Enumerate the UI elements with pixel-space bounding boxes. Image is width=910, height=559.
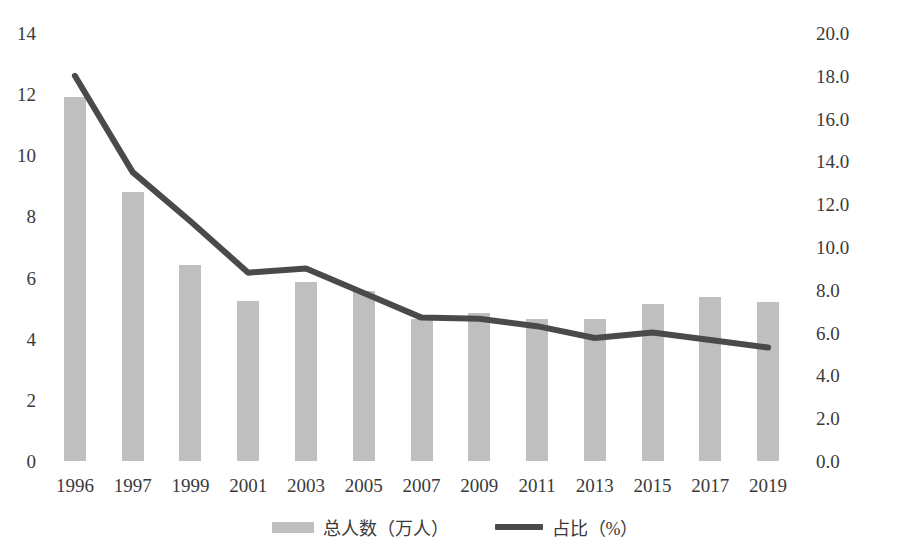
- right-axis-tick-8.0: 8.0: [816, 281, 876, 300]
- right-axis-tick-0.0: 0.0: [816, 452, 876, 471]
- legend-line-swatch-icon: [495, 524, 543, 530]
- bar-2019: [757, 302, 779, 461]
- bar-2001: [237, 301, 259, 462]
- bar-1997: [122, 192, 144, 461]
- chart-container: 02468101214 0.02.04.06.08.010.012.014.01…: [0, 0, 910, 559]
- legend-bar-swatch-icon: [272, 522, 314, 533]
- left-axis-tick-8: 8: [0, 207, 36, 226]
- left-axis-tick-14: 14: [0, 24, 36, 43]
- right-axis-tick-20.0: 20.0: [816, 24, 876, 43]
- category-tick-1997: 1997: [104, 476, 162, 495]
- bar-2007: [411, 319, 433, 461]
- right-axis-tick-6.0: 6.0: [816, 324, 876, 343]
- right-axis-tick-12.0: 12.0: [816, 195, 876, 214]
- category-tick-2003: 2003: [277, 476, 335, 495]
- bar-2017: [699, 297, 721, 461]
- bar-1996: [64, 97, 86, 461]
- category-tick-2017: 2017: [681, 476, 739, 495]
- right-axis-tick-16.0: 16.0: [816, 110, 876, 129]
- category-tick-2007: 2007: [393, 476, 451, 495]
- legend-label-share-percent: 占比（%）: [552, 514, 639, 540]
- left-axis-tick-4: 4: [0, 330, 36, 349]
- category-tick-1999: 1999: [162, 476, 220, 495]
- category-tick-2011: 2011: [508, 476, 566, 495]
- chart-legend: 总人数（万人） 占比（%）: [0, 514, 910, 540]
- bar-2015: [642, 304, 664, 461]
- bar-2013: [584, 319, 606, 461]
- category-tick-1996: 1996: [46, 476, 104, 495]
- category-tick-2013: 2013: [566, 476, 624, 495]
- bar-2003: [295, 282, 317, 461]
- category-tick-2015: 2015: [624, 476, 682, 495]
- right-axis-tick-2.0: 2.0: [816, 409, 876, 428]
- bar-2009: [468, 313, 490, 461]
- right-axis-tick-14.0: 14.0: [816, 152, 876, 171]
- right-axis-tick-18.0: 18.0: [816, 67, 876, 86]
- legend-item-total-population: 总人数（万人）: [272, 514, 449, 540]
- left-axis-tick-0: 0: [0, 452, 36, 471]
- left-axis-tick-10: 10: [0, 146, 36, 165]
- left-axis-tick-2: 2: [0, 391, 36, 410]
- right-axis-tick-4.0: 4.0: [816, 366, 876, 385]
- bar-2011: [526, 319, 548, 461]
- category-tick-2009: 2009: [450, 476, 508, 495]
- category-tick-2005: 2005: [335, 476, 393, 495]
- left-axis-tick-12: 12: [0, 85, 36, 104]
- legend-label-total-population: 总人数（万人）: [323, 514, 449, 540]
- left-axis-tick-6: 6: [0, 269, 36, 288]
- category-tick-2019: 2019: [739, 476, 797, 495]
- bar-2005: [353, 291, 375, 461]
- bar-1999: [179, 265, 201, 461]
- legend-item-share-percent: 占比（%）: [495, 514, 639, 540]
- right-axis-tick-10.0: 10.0: [816, 238, 876, 257]
- category-tick-2001: 2001: [219, 476, 277, 495]
